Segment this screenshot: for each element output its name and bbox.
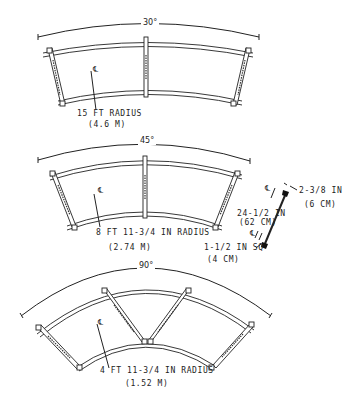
crossbar-right-30 — [231, 48, 251, 106]
centerline-symbol-30: ℄ — [93, 66, 98, 74]
centerline-leader-90 — [97, 324, 109, 368]
radius-label-90: 4 FT 11-3/4 IN RADIUS — [100, 367, 214, 375]
radius-metric-90: (1.52 M) — [125, 380, 168, 388]
offset-metric: (6 CM) — [304, 201, 337, 209]
centerline-symbol-90: ℄ — [98, 319, 103, 327]
angle-label-45: 45° — [138, 137, 156, 145]
crossbar-right-45 — [213, 171, 240, 230]
centerline-symbol-45: ℄ — [98, 187, 103, 195]
crossbar-left-90 — [36, 325, 82, 370]
curved-track-diagram — [0, 0, 354, 404]
angle-label-30: 30° — [141, 19, 159, 27]
angle-label-90: 90° — [137, 262, 155, 270]
centerline-symbol-detail-top: ℄ — [265, 185, 270, 193]
centerline-leader-30 — [91, 71, 96, 110]
section-45-drawing — [38, 144, 250, 230]
radius-metric-45: (2.74 M) — [108, 244, 151, 252]
section-30-drawing — [38, 24, 259, 111]
radius-label-30: 15 FT RADIUS — [77, 110, 142, 118]
crossbar-left-45 — [50, 171, 77, 230]
section-90-drawing — [20, 268, 272, 371]
radius-metric-30: (4.6 M) — [88, 121, 126, 129]
crossbar-right-90 — [209, 322, 254, 370]
offset-leader — [290, 186, 297, 190]
radius-label-45: 8 FT 11-3/4 IN RADIUS — [96, 229, 210, 237]
length-metric: (62 CM) — [239, 219, 277, 227]
dimension-arc-90 — [21, 268, 271, 316]
length-label: 24-1/2 IN — [237, 210, 286, 218]
crossbar-left-30 — [47, 48, 65, 106]
centerline-symbol-detail-bottom: ℄ — [250, 230, 255, 238]
crossbar-middle-45 — [143, 156, 147, 218]
offset-label: 2-3/8 IN — [299, 187, 342, 195]
crossbar-middle-30 — [144, 37, 148, 97]
tube-size-metric: (4 CM) — [207, 256, 240, 264]
crossbar-mid-right-90 — [142, 288, 191, 344]
tube-size-label: 1-1/2 IN SQ — [204, 244, 264, 252]
